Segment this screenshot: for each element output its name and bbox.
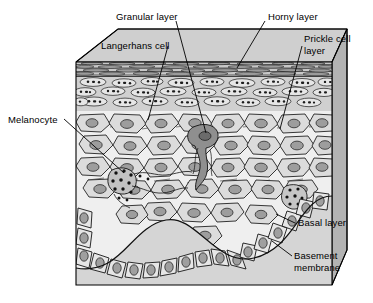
label-langerhans-cell: Langerhans cell (101, 40, 170, 52)
epidermis-diagram: Granular layer Horny layer Langerhans ce… (0, 0, 373, 303)
label-melanocyte: Melanocyte (8, 114, 58, 126)
label-basement-membrane-line2: membrane (294, 262, 340, 274)
granular-layer-region (74, 76, 336, 112)
label-granular-layer: Granular layer (116, 11, 178, 23)
label-prickle-cell-layer-line1: Prickle cell (304, 33, 351, 45)
block-right-face (332, 29, 347, 285)
label-basal-layer: Basal layer (298, 217, 346, 229)
label-horny-layer: Horny layer (268, 11, 318, 23)
label-prickle-cell-layer-line2: layer (304, 45, 325, 57)
label-basement-membrane-line1: Basement (294, 250, 338, 262)
horny-layer-region (74, 62, 334, 77)
